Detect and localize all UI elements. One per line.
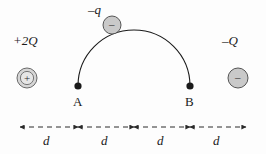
- dimension-label-1: d: [43, 134, 50, 147]
- trajectory-group: [78, 30, 190, 86]
- dimension-label-4: d: [213, 134, 220, 147]
- right-charge-label: –Q: [222, 34, 238, 47]
- trajectory-arc: [78, 30, 190, 86]
- physics-diagram: + – – +2Q –Q –q A B d d d d: [0, 0, 266, 154]
- point-a-label: A: [73, 95, 82, 108]
- point-b-dot: [186, 82, 193, 89]
- point-b-label: B: [185, 95, 194, 108]
- moving-charge-label: –q: [88, 3, 101, 16]
- dimension-label-2: d: [101, 134, 108, 147]
- dimension-label-3: d: [157, 134, 164, 147]
- minus-sign-icon-moving: –: [109, 19, 115, 30]
- left-charge-label: +2Q: [13, 34, 38, 47]
- diagram-canvas: [0, 0, 266, 154]
- point-a-dot: [74, 82, 81, 89]
- minus-sign-icon: –: [235, 72, 241, 83]
- plus-sign-icon: +: [24, 73, 30, 84]
